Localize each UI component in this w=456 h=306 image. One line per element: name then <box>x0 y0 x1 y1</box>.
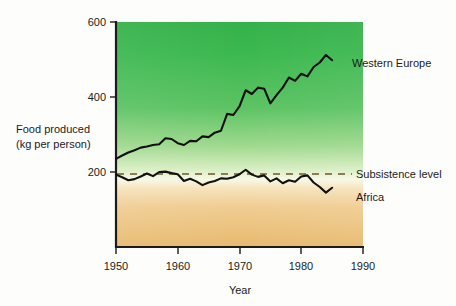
x-axis-title: Year <box>229 284 252 296</box>
y-axis-title-line1: Food produced <box>16 123 90 135</box>
x-tick-label-1990: 1990 <box>351 260 375 272</box>
y-axis-title-line2: (kg per person) <box>16 138 91 150</box>
food-production-line-chart: 600 400 200 1950 1960 1970 1980 1990 Foo… <box>0 0 456 306</box>
y-tick-label-600: 600 <box>88 16 106 28</box>
annotation-label-subsistence-level: Subsistence level <box>356 168 442 180</box>
y-tick-label-200: 200 <box>88 166 106 178</box>
series-label-western-europe: Western Europe <box>352 57 431 69</box>
x-tick-label-1950: 1950 <box>104 260 128 272</box>
x-tick-label-1960: 1960 <box>166 260 190 272</box>
series-label-africa: Africa <box>356 191 385 203</box>
y-tick-label-400: 400 <box>88 91 106 103</box>
x-tick-label-1970: 1970 <box>228 260 252 272</box>
chart-page: 600 400 200 1950 1960 1970 1980 1990 Foo… <box>0 0 456 306</box>
x-tick-label-1980: 1980 <box>289 260 313 272</box>
